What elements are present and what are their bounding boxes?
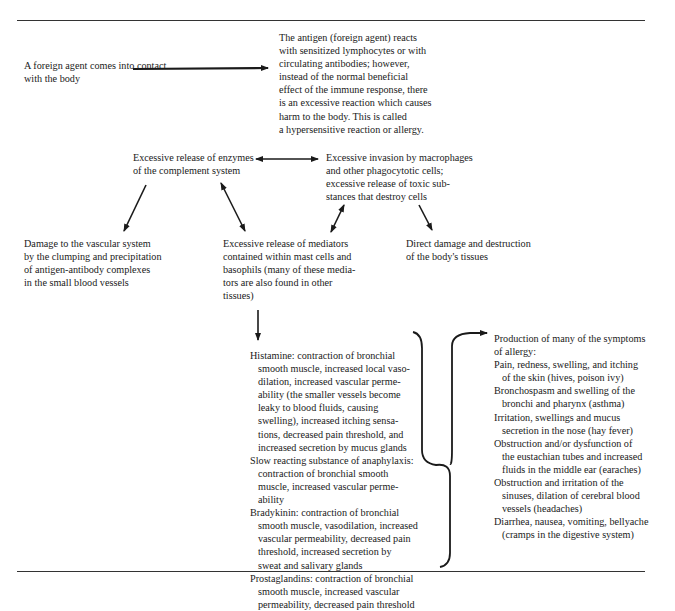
arrow-macrophages-to-direct xyxy=(419,205,432,230)
brace-icon xyxy=(413,332,450,567)
arrow-macrophages-mediators xyxy=(331,205,344,232)
brace-arrow-to-symptoms xyxy=(450,333,487,464)
arrow-complement-mediators xyxy=(221,183,245,231)
arrow-complement-to-vascular xyxy=(124,185,146,231)
arrow-foreign-to-antigen xyxy=(133,68,268,69)
